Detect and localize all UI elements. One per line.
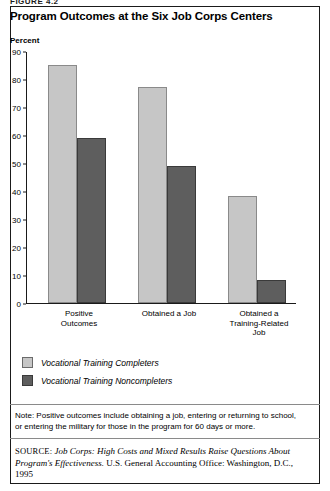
- bar-noncompleters: [77, 138, 106, 303]
- x-axis-line: [26, 303, 296, 304]
- bar-group: [228, 52, 290, 303]
- x-axis-category-label: PositiveOutcomes: [34, 309, 124, 328]
- x-axis-category-label: Obtained aTraining-RelatedJob: [214, 309, 304, 338]
- legend-swatch-completers-icon: [22, 357, 33, 368]
- x-axis-category-label: Obtained a Job: [124, 309, 214, 319]
- bar-completers: [48, 65, 77, 303]
- legend-label-completers: Vocational Training Completers: [41, 358, 159, 368]
- x-axis-label-line: Positive: [34, 309, 124, 319]
- bar-noncompleters: [167, 166, 196, 303]
- x-axis-label-line: Training-Related: [214, 319, 304, 329]
- figure-page: FIGURE 4.2 Program Outcomes at the Six J…: [0, 0, 330, 491]
- bar-group: [138, 52, 200, 303]
- source-divider: [10, 438, 320, 439]
- legend-label-noncompleters: Vocational Training Noncompleters: [41, 376, 172, 386]
- bar-completers: [138, 87, 167, 303]
- page-title: Program Outcomes at the Six Job Corps Ce…: [10, 10, 273, 22]
- legend-item: Vocational Training Completers: [22, 357, 292, 368]
- bar-group: [48, 52, 110, 303]
- legend-swatch-noncompleters-icon: [22, 375, 33, 386]
- note-divider: [10, 404, 320, 405]
- bar-completers: [228, 196, 257, 302]
- x-axis-label-line: Job: [214, 328, 304, 338]
- note-lead-label: Note:: [15, 411, 34, 420]
- bar-noncompleters: [257, 280, 286, 302]
- bar-series-container: [26, 52, 296, 303]
- figure-note: Note: Positive outcomes include obtainin…: [15, 411, 303, 432]
- bar-chart-plot: 0102030405060708090 PositiveOutcomesObta…: [26, 52, 296, 304]
- x-axis-label-line: Obtained a Job: [124, 309, 214, 319]
- legend-item: Vocational Training Noncompleters: [22, 375, 292, 386]
- chart-legend: Vocational Training Completers Vocationa…: [22, 357, 292, 393]
- figure-source: SOURCE: Job Corps: High Costs and Mixed …: [15, 446, 305, 481]
- x-axis-label-line: Obtained a: [214, 309, 304, 319]
- y-axis-unit-label: Percent: [10, 36, 39, 45]
- x-axis-label-line: Outcomes: [34, 319, 124, 329]
- note-text: Positive outcomes include obtaining a jo…: [15, 411, 296, 431]
- y-axis-tick-mark: [23, 304, 27, 305]
- source-label: SOURCE:: [15, 446, 52, 456]
